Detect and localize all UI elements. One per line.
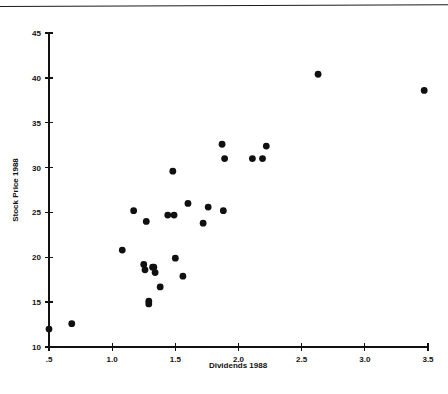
data-point: [119, 247, 126, 254]
x-tick-label-3.0: 3.0: [359, 355, 371, 364]
data-point: [220, 207, 227, 214]
y-tick-label-45: 45: [32, 29, 41, 38]
data-point: [249, 155, 256, 162]
data-point: [172, 255, 179, 262]
data-point: [130, 207, 137, 214]
data-point: [205, 204, 212, 211]
x-tick-label-3.5: 3.5: [422, 355, 434, 364]
y-tick-label-25: 25: [32, 208, 41, 217]
data-point: [142, 266, 149, 273]
data-point: [46, 326, 53, 333]
y-tick-label-30: 30: [32, 164, 41, 173]
data-point: [259, 155, 266, 162]
data-point: [185, 200, 192, 207]
y-tick-label-20: 20: [32, 253, 41, 262]
x-tick-label-1.0: 1.0: [107, 355, 119, 364]
y-tick-label-40: 40: [32, 74, 41, 83]
y-axis-tick-labels: 1015202530354045: [32, 29, 41, 352]
data-point: [68, 320, 75, 327]
data-points-layer: [46, 71, 428, 333]
data-point: [171, 212, 178, 219]
y-tick-label-10: 10: [32, 343, 41, 352]
data-point: [180, 273, 187, 280]
data-point: [169, 168, 176, 175]
plot-canvas: 1015202530354045 .51.01.52.02.53.03.5 Di…: [0, 0, 448, 394]
x-tick-label-2.5: 2.5: [296, 355, 308, 364]
x-tick-label-.5: .5: [46, 355, 53, 364]
data-point: [315, 71, 322, 78]
y-tick-label-15: 15: [32, 298, 41, 307]
y-axis-title: Stock Price 1988: [11, 158, 20, 222]
data-point: [143, 218, 150, 225]
data-point: [157, 283, 164, 290]
data-point: [421, 87, 428, 94]
x-axis-title: Dividends 1988: [209, 361, 268, 370]
data-point: [145, 298, 152, 305]
data-point: [263, 143, 270, 150]
x-tick-label-1.5: 1.5: [170, 355, 182, 364]
data-point: [200, 220, 207, 227]
data-point: [164, 212, 171, 219]
data-point: [221, 155, 228, 162]
scatter-plot-figure: 1015202530354045 .51.01.52.02.53.03.5 Di…: [0, 0, 448, 394]
data-point: [152, 269, 159, 276]
y-tick-label-35: 35: [32, 119, 41, 128]
data-point: [219, 141, 226, 148]
